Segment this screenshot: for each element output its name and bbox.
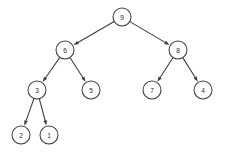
- tree-node[interactable]: 3: [28, 81, 46, 99]
- tree-node[interactable]: 6: [56, 41, 74, 59]
- tree-edge: [70, 58, 85, 82]
- tree-edge: [24, 99, 33, 126]
- tree-node[interactable]: 9: [113, 8, 131, 26]
- node-label: 3: [35, 87, 39, 94]
- tree-node[interactable]: 2: [12, 126, 30, 144]
- node-label: 7: [150, 87, 154, 94]
- tree-edge: [130, 22, 169, 45]
- tree-node[interactable]: 5: [82, 81, 100, 99]
- tree-diagram-canvas: 968357421: [0, 0, 225, 154]
- arrowhead-icon: [43, 77, 47, 82]
- arrowhead-icon: [73, 41, 78, 45]
- node-label: 5: [89, 87, 93, 94]
- tree-node[interactable]: 4: [194, 81, 212, 99]
- tree-node[interactable]: 1: [40, 126, 58, 144]
- tree-edge: [157, 58, 172, 82]
- arrowhead-icon: [24, 120, 27, 126]
- arrowhead-icon: [43, 120, 46, 125]
- tree-edge: [43, 58, 60, 82]
- tree-node[interactable]: 7: [143, 81, 161, 99]
- node-label: 9: [120, 14, 124, 21]
- node-label: 2: [19, 132, 23, 139]
- nodes-layer: 968357421: [12, 8, 212, 144]
- tree-edge: [183, 58, 198, 82]
- node-label: 6: [63, 47, 67, 54]
- arrowhead-icon: [157, 76, 161, 81]
- node-label: 8: [176, 47, 180, 54]
- tree-diagram-svg: 968357421: [0, 0, 225, 154]
- node-label: 4: [201, 87, 205, 94]
- tree-edge: [39, 99, 46, 125]
- arrowhead-icon: [194, 76, 198, 81]
- tree-edge: [73, 22, 113, 45]
- arrowhead-icon: [164, 41, 169, 45]
- arrowhead-icon: [81, 76, 85, 81]
- edges-layer: [24, 22, 198, 126]
- node-label: 1: [47, 132, 51, 139]
- tree-node[interactable]: 8: [169, 41, 187, 59]
